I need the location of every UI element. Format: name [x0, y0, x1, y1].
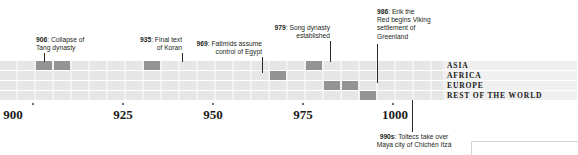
- region-label-rest-of-world: REST OF THE WORLD: [447, 91, 542, 100]
- timeline-cell: [360, 71, 376, 80]
- axis-tick-975: [302, 103, 304, 105]
- timeline-cell: [72, 71, 88, 80]
- event-text-969-line1: Fatimids assume: [211, 40, 262, 47]
- timeline-cell: [144, 61, 160, 70]
- region-legend: ASIA AFRICA EUROPE REST OF THE WORLD: [443, 61, 577, 101]
- timeline-cell: [126, 61, 142, 70]
- timeline-cell: [234, 91, 250, 100]
- timeline-cell: [126, 81, 142, 90]
- region-label-asia: ASIA: [447, 61, 469, 70]
- timeline-cell: [108, 91, 124, 100]
- timeline-cell: [234, 61, 250, 70]
- timeline-cell: [414, 61, 430, 70]
- timeline-cell: [18, 91, 34, 100]
- timeline-cell: [18, 81, 34, 90]
- timeline-cell: [360, 81, 376, 90]
- timeline-cell: [342, 61, 358, 70]
- event-year-906: 906: [36, 36, 47, 43]
- event-leader-986: [377, 44, 378, 83]
- event-year-986: 986: [377, 8, 388, 15]
- timeline-cell: [396, 91, 412, 100]
- timeline-cell: [270, 71, 286, 80]
- timeline-cell: [270, 91, 286, 100]
- region-label-europe: EUROPE: [447, 81, 484, 90]
- event-text-979-line2: established: [296, 32, 330, 39]
- timeline-cell: [216, 61, 232, 70]
- timeline-cell: [396, 61, 412, 70]
- timeline-cell: [180, 71, 196, 80]
- timeline-cell: [306, 91, 322, 100]
- timeline-cell: [342, 71, 358, 80]
- timeline-cell: [72, 61, 88, 70]
- timeline-cell: [54, 71, 70, 80]
- event-callout-935: 935: Final text of Koran: [110, 36, 182, 52]
- timeline-cell: [90, 81, 106, 90]
- timeline-cell: [18, 71, 34, 80]
- event-callout-990s: 990s: Toltecs take over Maya city of Chi…: [351, 133, 477, 149]
- event-text-986-line3: settlement of: [377, 24, 415, 31]
- timeline-axis: 900 925 950 975 1000: [0, 103, 577, 121]
- axis-tick-1000: [392, 103, 394, 105]
- timeline-cell: [0, 91, 16, 100]
- timeline-cell: [18, 61, 34, 70]
- timeline-cell: [378, 71, 394, 80]
- timeline-cell: [198, 91, 214, 100]
- axis-label-950: 950: [203, 107, 223, 123]
- event-callout-986: 986: Erik the Red begins Viking settleme…: [377, 8, 455, 41]
- timeline-cell: [324, 71, 340, 80]
- timeline-cell: [144, 81, 160, 90]
- event-text-990s-line1: Toltecs take over: [398, 133, 448, 140]
- event-text-906-line1: Collapse of: [51, 36, 84, 43]
- event-callout-979: 979: Song dynasty established: [260, 24, 330, 40]
- event-leader-906: [44, 53, 45, 62]
- timeline-cell: [144, 91, 160, 100]
- timeline-cell: [162, 71, 178, 80]
- timeline-cell: [36, 81, 52, 90]
- event-text-969-line2: control of Egypt: [216, 48, 262, 55]
- timeline-cell: [90, 61, 106, 70]
- axis-label-975: 975: [293, 107, 313, 123]
- timeline-cell: [216, 81, 232, 90]
- timeline-cell: [162, 91, 178, 100]
- timeline-cell: [342, 91, 358, 100]
- event-text-986-line1: Erik the: [392, 8, 415, 15]
- timeline-cell: [54, 81, 70, 90]
- timeline-cell: [306, 81, 322, 90]
- timeline-cell: [324, 81, 340, 90]
- event-text-935-line2: of Koran: [157, 44, 182, 51]
- event-text-906-line2: Tang dynasty: [36, 44, 75, 51]
- timeline-cell: [252, 81, 268, 90]
- timeline-cell: [216, 71, 232, 80]
- timeline-cell: [144, 71, 160, 80]
- timeline-cell: [252, 71, 268, 80]
- axis-tick-950: [212, 103, 214, 105]
- timeline-cell: [126, 91, 142, 100]
- timeline-cell: [108, 81, 124, 90]
- timeline-cell: [342, 81, 358, 90]
- event-leader-979: [330, 41, 331, 62]
- timeline-cell: [180, 81, 196, 90]
- event-leader-969: [262, 57, 263, 73]
- timeline-cell: [198, 61, 214, 70]
- timeline-cell: [90, 91, 106, 100]
- timeline-cell: [162, 81, 178, 90]
- timeline-cell: [54, 61, 70, 70]
- timeline-cell: [324, 91, 340, 100]
- timeline-cell: [198, 71, 214, 80]
- axis-label-925: 925: [113, 107, 133, 123]
- timeline-cell: [360, 91, 376, 100]
- axis-label-1000: 1000: [382, 107, 408, 123]
- timeline-cell: [0, 61, 16, 70]
- timeline-cell: [216, 91, 232, 100]
- timeline-cell: [288, 81, 304, 90]
- timeline-cell: [252, 91, 268, 100]
- timeline-cell: [324, 61, 340, 70]
- bottom-frame-decoration: [471, 141, 578, 155]
- event-text-990s-line2: Maya city of Chichén Itzá: [377, 141, 452, 148]
- timeline-cell: [396, 71, 412, 80]
- timeline-cell: [0, 71, 16, 80]
- axis-label-900: 900: [3, 107, 23, 123]
- timeline-cell: [36, 91, 52, 100]
- timeline-cell: [108, 61, 124, 70]
